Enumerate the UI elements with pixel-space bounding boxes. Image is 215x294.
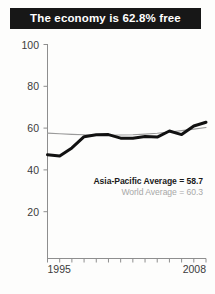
- plot-area: 100 80 60 40 20 1995 2008: [0, 33, 215, 273]
- chart-legend: Asia-Pacific Average = 58.7 World Averag…: [93, 176, 203, 198]
- series-line-asia-pacific: [48, 122, 207, 156]
- y-tick-marks: [44, 45, 48, 212]
- x-tick-label-start: 1995: [48, 263, 72, 273]
- legend-item-asia-pacific: Asia-Pacific Average = 58.7: [93, 176, 203, 187]
- y-tick-label: 40: [27, 164, 39, 176]
- y-tick-label: 80: [27, 80, 39, 92]
- chart-title-banner: The economy is 62.8% free: [10, 8, 201, 29]
- y-tick-labels: 100 80 60 40 20: [21, 39, 39, 218]
- chart-figure: The economy is 62.8% free 100 80 60 40: [0, 0, 215, 294]
- x-tick-marks: [48, 259, 207, 263]
- y-tick-label: 60: [27, 122, 39, 134]
- line-chart-svg: 100 80 60 40 20 1995 2008: [0, 33, 215, 273]
- y-tick-label: 20: [27, 206, 39, 218]
- page-title: The economy is 62.8% free: [30, 13, 181, 25]
- y-tick-label: 100: [21, 39, 39, 51]
- legend-item-world: World Average = 60.3: [93, 187, 203, 198]
- x-tick-label-end: 2008: [183, 263, 207, 273]
